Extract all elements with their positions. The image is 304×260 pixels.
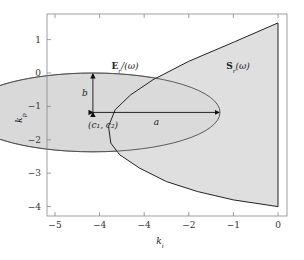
x-tick-label: −4 xyxy=(93,220,107,230)
center-label: (c₁, c₂) xyxy=(88,120,119,130)
x-tick-label: −2 xyxy=(182,220,195,230)
ellipse-label: Er/(ω) xyxy=(111,61,139,74)
a-label: a xyxy=(154,117,159,127)
x-tick-label: 0 xyxy=(275,220,281,230)
x-tick-label: −4 xyxy=(138,220,152,230)
y-tick-label: 1 xyxy=(35,35,41,45)
chart: −5−4−4−2−10 10−1−2−3−4 ki kp Er/(ω) Sr(ω… xyxy=(0,0,304,260)
plot-area xyxy=(0,23,278,207)
y-tick-label: −1 xyxy=(28,101,41,111)
x-axis-label: ki xyxy=(156,236,163,249)
y-tick-label: −3 xyxy=(28,168,42,178)
x-tick-label: −1 xyxy=(227,220,240,230)
y-tick-label: −2 xyxy=(28,135,41,145)
y-tick-label: 0 xyxy=(35,68,41,78)
x-tick-label: −5 xyxy=(48,220,62,230)
y-tick-label: −4 xyxy=(28,202,42,212)
region-S-fill xyxy=(109,23,279,207)
b-label: b xyxy=(82,88,88,98)
